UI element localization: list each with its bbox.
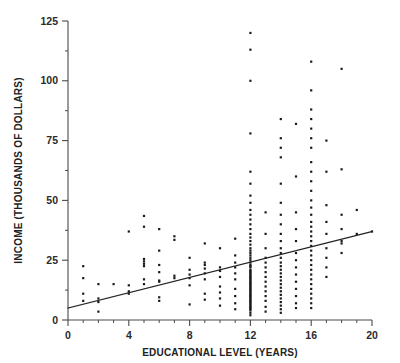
data-point [234, 308, 236, 310]
data-point [295, 302, 297, 304]
data-point [280, 283, 282, 285]
data-point [219, 305, 221, 307]
data-point [356, 209, 358, 211]
data-point [204, 242, 206, 244]
data-point [234, 272, 236, 274]
scatter-plot-figure: 0255075100125 048121620 EDUCATIONAL LEVE… [0, 0, 400, 363]
data-point [82, 277, 84, 279]
data-points-layer [82, 32, 373, 316]
data-point [204, 267, 206, 269]
data-point [249, 228, 251, 230]
data-point [295, 288, 297, 290]
data-point [82, 293, 84, 295]
data-point [280, 233, 282, 235]
data-point [143, 263, 145, 265]
data-point [341, 252, 343, 254]
data-point [280, 247, 282, 249]
data-point [280, 312, 282, 314]
data-point [265, 295, 267, 297]
data-point [310, 307, 312, 309]
data-point [280, 183, 282, 185]
data-point [158, 264, 160, 266]
data-point [325, 276, 327, 278]
data-point [310, 161, 312, 163]
data-point [310, 269, 312, 271]
y-axis-title: INCOME (THOUSANDS OF DOLLARS) [13, 77, 24, 263]
data-point [325, 247, 327, 249]
data-point [249, 266, 251, 268]
data-point [265, 247, 267, 249]
x-tick-label: 12 [245, 329, 257, 341]
data-point [280, 272, 282, 274]
data-point [249, 247, 251, 249]
data-point [325, 266, 327, 268]
data-point [295, 175, 297, 177]
data-point [173, 277, 175, 279]
data-point [173, 239, 175, 241]
data-point [204, 293, 206, 295]
data-point [143, 258, 145, 260]
data-point [219, 276, 221, 278]
data-point [280, 269, 282, 271]
data-point [249, 195, 251, 197]
data-point [280, 240, 282, 242]
data-point [280, 287, 282, 289]
data-point [310, 171, 312, 173]
data-point [97, 301, 99, 303]
data-point [310, 254, 312, 256]
data-point [249, 252, 251, 254]
data-point [310, 250, 312, 252]
data-point [97, 311, 99, 313]
data-point [249, 257, 251, 259]
data-point [219, 297, 221, 299]
data-point [234, 238, 236, 240]
data-point [280, 223, 282, 225]
data-point [280, 214, 282, 216]
data-point [265, 285, 267, 287]
data-point [204, 278, 206, 280]
data-point [310, 235, 312, 237]
data-point [143, 226, 145, 228]
data-point [280, 261, 282, 263]
data-point [234, 254, 236, 256]
data-point [341, 214, 343, 216]
data-point [234, 302, 236, 304]
data-point [173, 275, 175, 277]
data-point [249, 80, 251, 82]
data-point [341, 242, 343, 244]
data-point [249, 309, 251, 311]
data-point [310, 288, 312, 290]
data-point [249, 202, 251, 204]
x-tick-label: 4 [126, 329, 132, 341]
data-point [265, 281, 267, 283]
data-point [204, 299, 206, 301]
data-point [249, 183, 251, 185]
data-point [310, 264, 312, 266]
data-point [97, 283, 99, 285]
y-tick-label: 0 [52, 314, 58, 326]
data-point [249, 209, 251, 211]
data-point [234, 295, 236, 297]
data-point [189, 257, 191, 259]
x-axis-title: EDUCATIONAL LEVEL (YEARS) [142, 347, 298, 358]
data-point [295, 252, 297, 254]
data-point [310, 230, 312, 232]
data-point [280, 305, 282, 307]
data-point [310, 199, 312, 201]
data-point [249, 236, 251, 238]
data-point [158, 228, 160, 230]
data-point [280, 290, 282, 292]
data-point [341, 68, 343, 70]
data-point [325, 257, 327, 259]
data-point [158, 250, 160, 252]
data-point [295, 259, 297, 261]
data-point [219, 247, 221, 249]
data-point [280, 118, 282, 120]
data-point [249, 233, 251, 235]
data-point [280, 156, 282, 158]
data-point [341, 168, 343, 170]
data-point [295, 228, 297, 230]
data-point [189, 284, 191, 286]
data-point [295, 273, 297, 275]
data-point [265, 233, 267, 235]
